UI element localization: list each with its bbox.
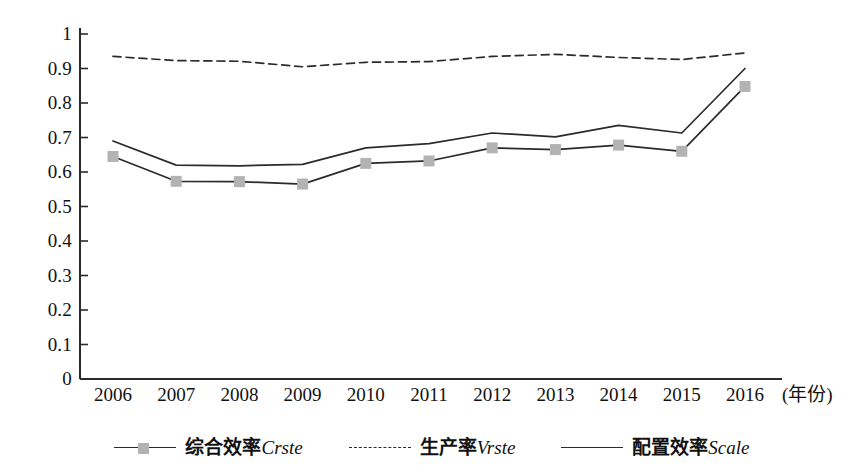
x-axis-tick-label: 2016	[726, 384, 764, 406]
x-axis-tick-labels: 2016201520142013201220112010200920082007…	[0, 384, 864, 414]
x-axis-tick-label: 2006	[94, 384, 132, 406]
x-axis-tick-label: 2014	[600, 384, 638, 406]
y-axis-tick-label: 0.8	[20, 93, 72, 112]
y-axis-tick-label: 0.6	[20, 162, 72, 181]
series-marker	[740, 81, 751, 92]
x-axis-tick-label: 2013	[536, 384, 574, 406]
legend-swatch-1	[114, 441, 176, 455]
series-marker	[424, 155, 435, 166]
legend-marker-icon	[138, 443, 149, 454]
x-axis-tick-label: 2009	[284, 384, 322, 406]
x-axis-tick-label: 2010	[347, 384, 385, 406]
y-axis-tick-label: 0.3	[20, 266, 72, 285]
legend-swatch-3	[561, 441, 623, 455]
y-axis-tick-label: 0.5	[20, 197, 72, 216]
legend-label-term: Crste	[261, 437, 302, 458]
y-axis-tick-label: 0.4	[20, 231, 72, 250]
x-axis-tick-label: 2011	[410, 384, 447, 406]
legend-label-cn: 配置效率	[632, 437, 708, 458]
y-axis-tick-label: 1	[20, 24, 72, 43]
plot-canvas	[0, 0, 864, 420]
series-marker	[550, 144, 561, 155]
legend-item-3[interactable]: 配置效率Scale	[561, 438, 749, 458]
legend-line-icon	[349, 447, 411, 448]
legend-label-term: Scale	[708, 437, 749, 458]
x-axis-tick-label: 2008	[220, 384, 258, 406]
x-axis-tick-label: 2015	[663, 384, 701, 406]
series-marker	[297, 179, 308, 190]
y-axis-tick-label: 0.9	[20, 59, 72, 78]
chart-legend: 综合效率Crste生产率Vrste配置效率Scale	[0, 428, 864, 468]
series-marker	[487, 142, 498, 153]
series-marker	[234, 176, 245, 187]
x-axis-tick-label: 2007	[157, 384, 195, 406]
y-axis-tick-label: 0.2	[20, 300, 72, 319]
y-axis-tick-labels: 10.90.80.70.60.50.40.30.20.10	[20, 0, 72, 420]
legend-item-1[interactable]: 综合效率Crste	[114, 438, 302, 458]
series-line-1	[113, 86, 745, 184]
efficiency-line-chart: 10.90.80.70.60.50.40.30.20.10 2016201520…	[0, 0, 864, 476]
legend-label-term: Vrste	[477, 437, 516, 458]
series-marker	[676, 146, 687, 157]
series-line-2	[113, 53, 745, 67]
series-marker	[360, 158, 371, 169]
legend-label-cn: 生产率	[420, 437, 477, 458]
plot-area	[0, 0, 864, 420]
legend-swatch-2	[349, 441, 411, 455]
legend-item-2[interactable]: 生产率Vrste	[349, 438, 516, 458]
legend-label-3: 配置效率Scale	[632, 438, 749, 458]
series-marker	[171, 176, 182, 187]
legend-line-icon	[561, 447, 623, 448]
series-line-3	[113, 69, 745, 166]
legend-label-1: 综合效率Crste	[185, 438, 302, 458]
y-axis-tick-label: 0.7	[20, 128, 72, 147]
legend-label-cn: 综合效率	[185, 437, 261, 458]
series-marker	[613, 140, 624, 151]
x-axis-tick-label: 2012	[473, 384, 511, 406]
series-marker	[108, 151, 119, 162]
x-axis-unit-label: (年份)	[782, 384, 833, 406]
legend-label-2: 生产率Vrste	[420, 438, 516, 458]
y-axis-tick-label: 0.1	[20, 335, 72, 354]
